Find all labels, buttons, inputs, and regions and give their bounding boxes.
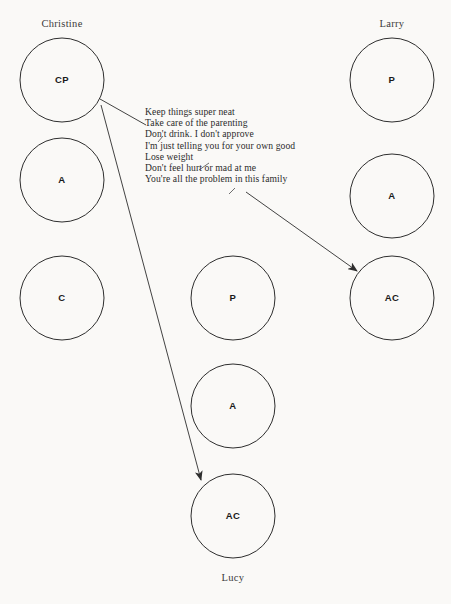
ego-state-christine-c[interactable]: C xyxy=(20,256,104,340)
ego-state-label-lucy-ac: AC xyxy=(226,510,241,521)
message-line: Don't feel hurt or mad at me xyxy=(145,162,256,173)
person-name-larry: Larry xyxy=(380,18,405,29)
ego-state-label-lucy-a: A xyxy=(229,400,236,411)
ego-state-larry-ac[interactable]: AC xyxy=(350,256,434,340)
ego-state-lucy-p[interactable]: P xyxy=(191,256,275,340)
person-name-lucy: Lucy xyxy=(222,572,245,583)
ego-state-label-lucy-p: P xyxy=(230,292,237,303)
message-line: Lose weight xyxy=(145,151,193,162)
connector-christine-cp-to-messages xyxy=(100,99,146,125)
ego-state-larry-a[interactable]: A xyxy=(350,154,434,238)
ego-state-lucy-ac[interactable]: AC xyxy=(191,474,275,558)
ego-state-label-christine-cp: CP xyxy=(55,74,69,85)
person-name-christine: Christine xyxy=(41,18,82,29)
message-line: I'm just telling you for your own good xyxy=(145,140,295,151)
connector-messages-to-larry-ac xyxy=(246,192,357,271)
ego-state-label-larry-ac: AC xyxy=(385,292,400,303)
diagram-root: CPACPAACPAAC ChristineLucyLarry Keep thi… xyxy=(0,0,451,604)
message-line: You're all the problem in this family xyxy=(145,173,288,184)
tick-family xyxy=(229,188,235,194)
message-text-block: Keep things super neatTake care of the p… xyxy=(145,106,295,184)
diagram-canvas: CPACPAACPAAC ChristineLucyLarry Keep thi… xyxy=(0,0,451,604)
ego-state-label-larry-a: A xyxy=(388,190,395,201)
ego-state-christine-cp[interactable]: CP xyxy=(20,38,104,122)
message-line: Take care of the parenting xyxy=(145,117,248,128)
ego-state-label-christine-a: A xyxy=(58,174,65,185)
message-line: Don't drink. I don't approve xyxy=(145,128,254,139)
ego-state-christine-a[interactable]: A xyxy=(20,138,104,222)
ego-state-label-christine-c: C xyxy=(58,292,65,303)
ego-state-lucy-a[interactable]: A xyxy=(191,364,275,448)
message-line: Keep things super neat xyxy=(145,106,235,117)
ego-state-larry-p[interactable]: P xyxy=(350,38,434,122)
ego-state-label-larry-p: P xyxy=(389,74,396,85)
